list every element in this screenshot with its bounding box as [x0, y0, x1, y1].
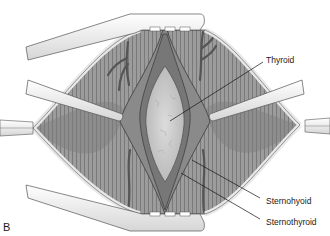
label-sternohyoid: Sternohyoid [266, 197, 311, 206]
skin-hook-left [0, 120, 33, 136]
label-thyroid: Thyroid [266, 56, 294, 65]
label-sternothyroid: Sternothyroid [266, 218, 317, 227]
panel-letter: B [3, 222, 10, 233]
skin-hook-right [305, 118, 330, 134]
